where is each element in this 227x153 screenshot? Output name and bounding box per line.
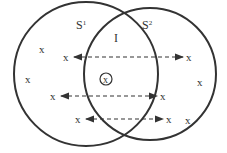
intersection-label: I (114, 31, 118, 45)
circled-point: x (100, 73, 112, 85)
svg-text:x: x (166, 113, 172, 125)
arrow-row-2: x x (50, 90, 166, 102)
set-diagram: S1 S2 I x x x x x x x x x x x (0, 0, 227, 153)
point: x (25, 73, 31, 85)
svg-text:x: x (50, 90, 56, 102)
arrow-row-1: x x (63, 51, 192, 63)
set-s1-label: S1 (76, 18, 87, 32)
point: x (185, 114, 191, 126)
point: x (197, 76, 203, 88)
arrow-row-3: x x (75, 113, 172, 125)
svg-text:x: x (186, 51, 192, 63)
svg-text:x: x (103, 74, 108, 85)
point: x (39, 43, 45, 55)
svg-text:x: x (75, 113, 81, 125)
svg-text:x: x (63, 51, 69, 63)
set-s2-label: S2 (142, 18, 153, 32)
points: x x x x (25, 43, 203, 126)
svg-text:x: x (160, 90, 166, 102)
